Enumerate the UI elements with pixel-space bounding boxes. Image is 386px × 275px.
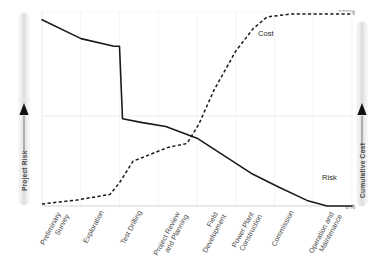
x-tick-label-exploration: Exploration — [81, 209, 106, 245]
svg-text:Preliminary Survey: Preliminary Survey — [38, 208, 71, 250]
x-tick-label-operation-and-maintenance: Operation and Maintenance — [306, 209, 344, 259]
right-scale-label: Cumulative Cost — [359, 142, 366, 198]
x-tick-label-field-development: Field Development — [193, 209, 228, 255]
svg-text:Commission: Commission — [269, 209, 296, 248]
series-annotation-cost: Cost — [258, 29, 275, 38]
svg-text:Project Review and P: Project Review and Planning — [151, 209, 190, 261]
series-annotation-risk: Risk — [322, 173, 337, 182]
svg-text:Exploration: Exploration — [81, 209, 106, 245]
x-tick-label-preliminary-survey: Preliminary Survey — [38, 208, 71, 250]
svg-text:Test Drilling: Test Drilling — [118, 209, 143, 246]
left-scale-label: Project Risk — [21, 150, 29, 191]
x-axis-labels: Preliminary Survey Exploration Test Dril… — [38, 208, 344, 261]
x-tick-label-power-plant-construction: Power Plant Construction — [230, 209, 264, 253]
x-tick-label-commission: Commission — [269, 209, 296, 248]
x-tick-label-project-review-and-planning: Project Review and Planning — [151, 209, 190, 261]
plot-area: Cost Risk — [42, 12, 352, 206]
svg-text:Field Development: Field Development — [193, 209, 228, 255]
geothermal-project-risk-cost-chart: Project Risk Cumulative Cost 100% 0% — [0, 0, 386, 275]
svg-text:Operation and Mainte: Operation and Maintenance — [306, 209, 344, 259]
chart-canvas: Project Risk Cumulative Cost 100% 0% — [0, 0, 386, 275]
x-tick-label-test-drilling: Test Drilling — [118, 209, 143, 246]
left-scale-bar: Project Risk — [19, 13, 29, 205]
svg-text:Power Plant Construc: Power Plant Construction — [230, 209, 264, 253]
